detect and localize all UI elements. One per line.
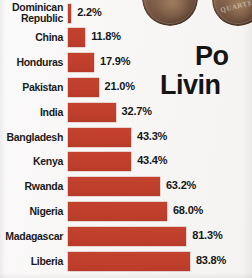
bar-track: 2.2%	[68, 1, 252, 26]
bar	[68, 202, 167, 221]
chart-row: Kenya43.4%	[0, 149, 252, 174]
bar	[68, 227, 186, 246]
bar-value-label: 43.3%	[137, 130, 167, 142]
bar-track: 63.2%	[68, 174, 252, 199]
bar	[68, 103, 116, 122]
bar-value-label: 32.7%	[122, 105, 152, 117]
chart-row: Liberia83.8%	[0, 249, 252, 274]
bar	[68, 177, 160, 196]
category-label: Bangladesh	[0, 132, 68, 143]
bar-value-label: 63.2%	[166, 179, 196, 191]
chart-row: Pakistan21.0%	[0, 75, 252, 100]
bar-track: 83.8%	[68, 249, 252, 274]
category-label: Kenya	[0, 156, 68, 167]
chart-row: China11.8%	[0, 25, 252, 50]
bar-track: 43.4%	[68, 149, 252, 174]
category-label: Honduras	[0, 57, 68, 68]
category-label: Rwanda	[0, 181, 68, 192]
bar	[68, 152, 131, 171]
bar	[68, 53, 94, 72]
bar-value-label: 11.8%	[91, 30, 121, 42]
chart-row: Rwanda63.2%	[0, 174, 252, 199]
bar-value-label: 2.2%	[77, 6, 101, 18]
category-label: DominicanRepublic	[0, 2, 68, 25]
bar-track: 21.0%	[68, 75, 252, 100]
bar	[68, 252, 190, 271]
bar-track: 17.9%	[68, 50, 252, 75]
bar-value-label: 81.3%	[192, 229, 222, 241]
chart-row: DominicanRepublic2.2%	[0, 1, 252, 26]
category-label: Liberia	[0, 256, 68, 267]
bar-track: 11.8%	[68, 25, 252, 50]
bar-value-label: 68.0%	[173, 204, 203, 216]
horizontal-bar-chart: DominicanRepublic2.2%China11.8%Honduras1…	[0, 0, 252, 278]
bar-value-label: 21.0%	[105, 80, 135, 92]
chart-row: India32.7%	[0, 100, 252, 125]
bar	[68, 128, 131, 147]
bar-track: 68.0%	[68, 199, 252, 224]
chart-row: Honduras17.9%	[0, 50, 252, 75]
bar-track: 32.7%	[68, 100, 252, 125]
bar	[68, 28, 85, 47]
bar	[68, 78, 99, 97]
bar-value-label: 83.8%	[196, 254, 226, 266]
bar-track: 43.3%	[68, 125, 252, 150]
bar-track: 81.3%	[68, 224, 252, 249]
bar	[68, 4, 71, 23]
bar-value-label: 43.4%	[137, 154, 167, 166]
category-label: Nigeria	[0, 206, 68, 217]
category-label: China	[0, 32, 68, 43]
chart-row: Madagascar81.3%	[0, 224, 252, 249]
chart-row: Nigeria68.0%	[0, 199, 252, 224]
category-label: Pakistan	[0, 82, 68, 93]
chart-row: Bangladesh43.3%	[0, 125, 252, 150]
bar-value-label: 17.9%	[100, 55, 130, 67]
category-label: Madagascar	[0, 231, 68, 242]
category-label: India	[0, 107, 68, 118]
